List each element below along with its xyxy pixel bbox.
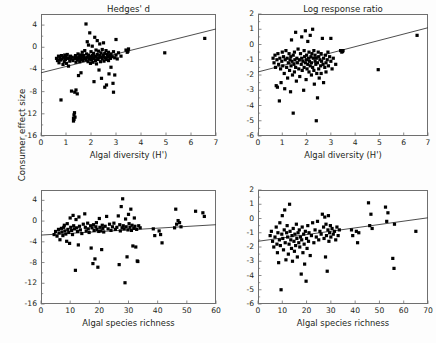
y-tick-label: -8 [19,258,37,267]
data-point [329,224,332,227]
data-point [102,230,105,233]
data-point [92,229,95,232]
data-point [129,208,132,211]
data-point [123,281,126,284]
data-point [309,254,312,257]
data-point [278,221,281,224]
data-point [384,206,387,209]
data-point [57,231,60,234]
data-point [327,240,330,243]
data-point [119,229,122,232]
data-point [153,234,156,237]
data-point [275,243,278,246]
data-point [338,228,341,231]
data-point [179,225,182,228]
data-point [69,216,72,219]
data-point [125,225,128,228]
data-point [77,243,80,246]
data-point [300,272,303,275]
data-point [276,251,279,254]
data-point [285,231,288,234]
data-point [71,233,74,236]
data-point [289,238,292,241]
data-point [320,233,323,236]
data-point [54,230,57,233]
data-point [125,255,128,258]
data-point [356,241,359,244]
data-point [337,234,340,237]
data-point [194,210,197,213]
data-point [286,235,289,238]
data-point [74,269,77,272]
data-point [279,288,282,291]
data-point [287,243,290,246]
data-point [277,261,280,264]
data-point [136,260,139,263]
data-point [121,197,124,200]
data-point [111,225,114,228]
data-point [120,205,123,208]
data-point [332,233,335,236]
y-tick-label: -5 [236,285,254,294]
y-tick-label: 1 [236,199,254,208]
data-point [334,238,337,241]
data-point [104,225,107,228]
y-tick-label: -6 [236,299,254,308]
data-point [281,214,284,217]
y-tick-label: 4 [19,20,37,29]
data-point [76,230,79,233]
data-point [87,227,90,230]
data-point [301,251,304,254]
data-point [79,228,82,231]
data-point [70,229,73,232]
data-point [55,235,58,238]
data-point [295,223,298,226]
data-point [158,229,161,232]
data-point [351,234,354,237]
data-point [322,225,325,228]
data-point [98,217,101,220]
x-tick-label: 50 [175,306,199,315]
x-tick-label: 70 [416,306,436,315]
data-point [269,234,272,237]
data-point [67,231,70,234]
data-point [106,227,109,230]
data-point [275,225,278,228]
data-point [118,263,121,266]
data-point [371,227,374,230]
data-point [60,230,63,233]
data-point [86,222,89,225]
data-point [310,234,313,237]
y-tick-label: -1 [236,228,254,237]
y-tick-label: -12 [19,278,37,287]
data-point [101,224,104,227]
data-point [317,238,320,241]
y-tick-label: 0 [19,42,37,51]
data-point [305,247,308,250]
data-point [312,241,315,244]
data-point [369,213,372,216]
data-point [280,233,283,236]
data-point [108,223,111,226]
data-point [272,245,275,248]
data-point [386,211,389,214]
y-tick-label: 0 [19,216,37,225]
data-point [316,220,319,223]
data-point [321,213,324,216]
data-point [322,237,325,240]
y-tick-label: -4 [19,64,37,73]
data-point [325,234,328,237]
data-point [297,241,300,244]
data-point [112,222,115,225]
y-tick-label: -16 [19,131,37,140]
x-tick-label: 20 [295,306,319,315]
data-point [124,217,127,220]
data-point [278,238,281,241]
data-point [286,224,289,227]
x-tick-label: 40 [146,306,170,315]
data-point [301,225,304,228]
data-point [323,215,326,218]
data-point [304,230,307,233]
data-point [152,227,155,230]
data-point [298,228,301,231]
